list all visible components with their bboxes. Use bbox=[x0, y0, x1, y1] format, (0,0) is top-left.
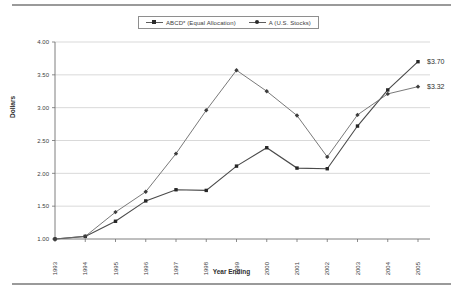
x-axis-ticks: 1993199419951996199719981999200020012002… bbox=[52, 239, 421, 275]
y-axis-ticks: 1.001.502.002.503.003.504.00 bbox=[37, 39, 55, 242]
data-point bbox=[386, 88, 389, 91]
x-tick-label: 1996 bbox=[143, 261, 149, 275]
x-tick-label: 2000 bbox=[264, 261, 270, 275]
data-point bbox=[416, 60, 419, 63]
data-point bbox=[174, 188, 177, 191]
x-tick-label: 2004 bbox=[385, 261, 391, 275]
data-point bbox=[295, 166, 298, 169]
x-tick-label: 1993 bbox=[52, 261, 58, 275]
x-tick-label: 2002 bbox=[324, 261, 330, 275]
plot-area: 1.001.502.002.503.003.504.00 19931994199… bbox=[0, 0, 463, 293]
data-series bbox=[53, 60, 420, 241]
data-point bbox=[265, 146, 268, 149]
y-tick-label: 2.00 bbox=[37, 171, 49, 177]
data-point bbox=[416, 84, 420, 88]
series-line-abcd bbox=[55, 62, 418, 239]
data-point bbox=[144, 199, 147, 202]
y-tick-label: 1.00 bbox=[37, 236, 49, 242]
x-tick-label: 2001 bbox=[294, 261, 300, 275]
x-tick-label: 1997 bbox=[173, 261, 179, 275]
x-tick-label: 1994 bbox=[82, 261, 88, 275]
x-tick-label: 1995 bbox=[113, 261, 119, 275]
x-tick-label: 2005 bbox=[415, 261, 421, 275]
chart-area: ABCD* (Equal Allocation) A (U.S. Stocks)… bbox=[0, 0, 463, 293]
endpoint-value-label: $3.32 bbox=[427, 83, 445, 90]
y-tick-label: 3.00 bbox=[37, 105, 49, 111]
endpoint-annotations: $3.70$3.32 bbox=[427, 58, 445, 90]
y-tick-label: 2.50 bbox=[37, 138, 49, 144]
y-tick-label: 4.00 bbox=[37, 39, 49, 45]
y-tick-label: 1.50 bbox=[37, 203, 49, 209]
endpoint-value-label: $3.70 bbox=[427, 58, 445, 65]
x-tick-label: 1999 bbox=[234, 261, 240, 275]
plot-svg: 1.001.502.002.503.003.504.00 19931994199… bbox=[0, 0, 463, 293]
gridlines bbox=[55, 42, 430, 206]
data-point bbox=[114, 220, 117, 223]
x-tick-label: 2003 bbox=[355, 261, 361, 275]
y-tick-label: 3.50 bbox=[37, 72, 49, 78]
series-line-a bbox=[55, 70, 418, 239]
data-point bbox=[356, 124, 359, 127]
data-point bbox=[326, 167, 329, 170]
data-point bbox=[235, 164, 238, 167]
x-tick-label: 1998 bbox=[203, 261, 209, 275]
data-point bbox=[205, 189, 208, 192]
